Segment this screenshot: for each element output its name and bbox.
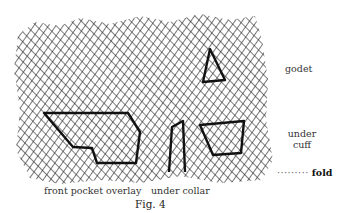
godet-label: godet: [285, 63, 312, 74]
figure-caption: Fig. 4: [135, 198, 166, 210]
fold-line-marker: ·········: [277, 167, 309, 178]
fold-label: fold: [312, 167, 333, 178]
under-cuff-label-line2: cuff: [285, 139, 319, 150]
under-cuff-label-line1: under: [285, 128, 319, 139]
front-pocket-overlay-label: front pocket overlay: [44, 185, 141, 196]
fold-legend: ········· fold: [277, 167, 332, 178]
fabric-layout-diagram: [0, 0, 338, 213]
fabric-hatching: [0, 0, 338, 213]
under-collar-label: under collar: [151, 185, 210, 196]
under-cuff-label: under cuff: [285, 128, 319, 150]
